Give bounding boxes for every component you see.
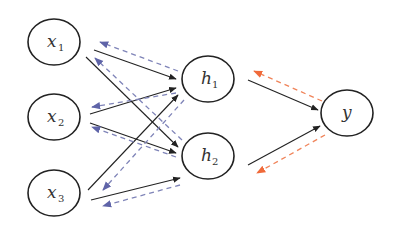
edge-h2-y bbox=[248, 126, 320, 165]
node-h2-subscript: 2 bbox=[212, 156, 218, 167]
edge-x2-h2 bbox=[90, 123, 176, 153]
backward-edges-hidden bbox=[92, 42, 184, 206]
backedge-h2-x3 bbox=[103, 185, 180, 206]
backward-edges-output bbox=[254, 71, 325, 173]
node-x2-label: x bbox=[47, 106, 57, 126]
node-h2-label: h bbox=[201, 145, 212, 165]
node-x3: x 3 bbox=[28, 170, 80, 216]
neural-network-diagram: x 1 x 2 x 3 h 1 h 2 y bbox=[0, 0, 404, 242]
node-h1-label: h bbox=[201, 68, 212, 88]
node-y-label: y bbox=[341, 102, 352, 122]
node-h1: h 1 bbox=[182, 56, 234, 102]
node-x3-label: x bbox=[47, 182, 57, 202]
node-x1-subscript: 1 bbox=[58, 42, 64, 53]
node-x2: x 2 bbox=[28, 94, 80, 140]
node-x2-subscript: 2 bbox=[58, 117, 64, 128]
node-x3-subscript: 3 bbox=[58, 193, 64, 204]
node-h1-subscript: 1 bbox=[212, 79, 218, 90]
node-x1-label: x bbox=[47, 31, 57, 51]
edge-h1-y bbox=[248, 80, 318, 110]
backedge-y-h1 bbox=[254, 71, 322, 101]
node-y: y bbox=[321, 90, 373, 136]
node-h2: h 2 bbox=[182, 133, 234, 179]
node-x1: x 1 bbox=[28, 19, 80, 65]
edge-x1-h2 bbox=[86, 57, 178, 147]
edge-x3-h1 bbox=[88, 95, 178, 190]
